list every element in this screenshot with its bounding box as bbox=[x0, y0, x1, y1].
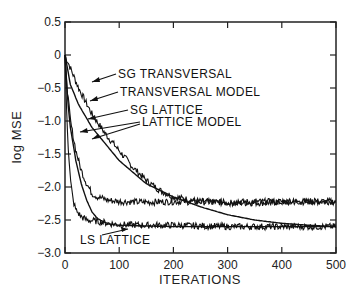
arrowhead-icon bbox=[90, 96, 98, 101]
y-tick-label: 0.5 bbox=[44, 15, 61, 29]
y-tick-labels: 0.50−0.5−1.0−1.5−2.0−2.5−3.0 bbox=[37, 15, 61, 260]
series-lines bbox=[65, 55, 336, 230]
y-axis-title: log MSE bbox=[9, 111, 24, 164]
y-tick-label: −1.5 bbox=[37, 147, 61, 161]
arrowhead-icon bbox=[92, 77, 100, 82]
x-tick-label: 300 bbox=[218, 258, 238, 272]
x-tick-label: 100 bbox=[109, 258, 129, 272]
y-tick-label: −0.5 bbox=[37, 81, 61, 95]
annotation-transversal-model: TRANSVERSAL MODEL bbox=[120, 85, 260, 99]
plot-frame bbox=[65, 22, 336, 253]
y-tick-label: −2.0 bbox=[37, 180, 61, 194]
annotation-ls-lattice: LS LATTICE bbox=[80, 233, 150, 247]
y-tick-label: 0 bbox=[54, 48, 61, 62]
annotation-lattice-model: LATTICE MODEL bbox=[142, 115, 242, 129]
y-tick-label: −2.5 bbox=[37, 213, 61, 227]
arrowhead-icon bbox=[121, 227, 128, 232]
x-tick-label: 400 bbox=[272, 258, 292, 272]
axis-ticks bbox=[65, 22, 336, 253]
y-tick-label: −3.0 bbox=[37, 246, 61, 260]
annotation-sg-transversal: SG TRANSVERSAL bbox=[118, 67, 232, 81]
y-tick-label: −1.0 bbox=[37, 114, 61, 128]
line-chart: 0.50−0.5−1.0−1.5−2.0−2.5−3.0 01002003004… bbox=[0, 0, 364, 299]
x-tick-label: 0 bbox=[62, 258, 69, 272]
x-tick-label: 200 bbox=[163, 258, 183, 272]
x-axis-title: ITERATIONS bbox=[159, 272, 241, 287]
x-tick-label: 500 bbox=[326, 258, 346, 272]
x-tick-labels: 0100200300400500 bbox=[62, 258, 347, 272]
